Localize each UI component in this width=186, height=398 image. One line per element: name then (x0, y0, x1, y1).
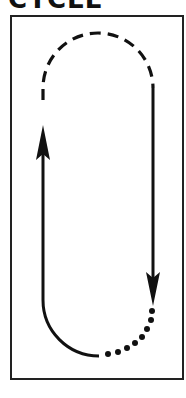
diagram-frame (11, 16, 183, 379)
cycle-diagram (0, 0, 186, 398)
bottom-dotted-arc (105, 308, 155, 357)
top-dashed-arc (43, 33, 153, 100)
bottom-left-arc (43, 300, 99, 356)
